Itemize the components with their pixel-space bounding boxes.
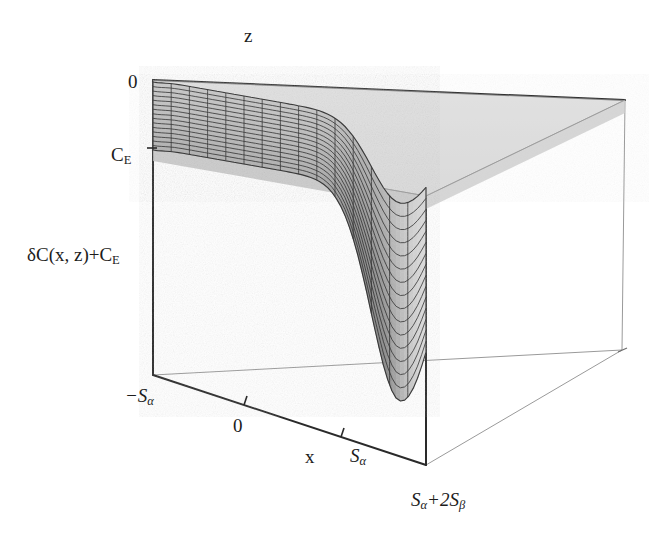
axis-tick-CE: CE	[111, 145, 131, 166]
tick-depth-prefix: S	[411, 489, 421, 510]
axis-tick-x-Salpha: Sα	[350, 446, 366, 467]
tick-minus-Salpha-subscript: α	[147, 394, 154, 408]
tick-Salpha-prefix: S	[350, 445, 360, 466]
tick-minus-Salpha-prefix: −S	[125, 385, 147, 406]
axis-label-x: x	[305, 447, 315, 466]
figure-root: z 0 CE δC(x, z)+CE −Sα 0 x Sα Sα+2Sβ	[0, 0, 653, 545]
tick-CE-prefix: C	[111, 144, 124, 165]
axis-label-z: z	[244, 26, 252, 45]
axis-ticks	[147, 148, 344, 437]
vertical-label-prefix: δC(x, z)+C	[27, 244, 112, 265]
axis-tick-x-zero: 0	[233, 416, 243, 435]
tick-CE-subscript: E	[124, 153, 132, 167]
tick-depth-sub2: β	[459, 498, 465, 512]
axis-tick-x-minus-Salpha: −Sα	[125, 386, 154, 407]
axis-tick-depth-Salpha-2Sbeta: Sα+2Sβ	[411, 490, 465, 511]
tick-depth-middle: +2S	[427, 489, 459, 510]
tick-Salpha-subscript: α	[360, 454, 367, 468]
axis-label-vertical: δC(x, z)+CE	[27, 245, 120, 266]
vertical-label-subscript: E	[112, 253, 120, 267]
surface-plot-canvas	[0, 0, 653, 545]
axis-tick-z-zero: 0	[128, 72, 138, 91]
